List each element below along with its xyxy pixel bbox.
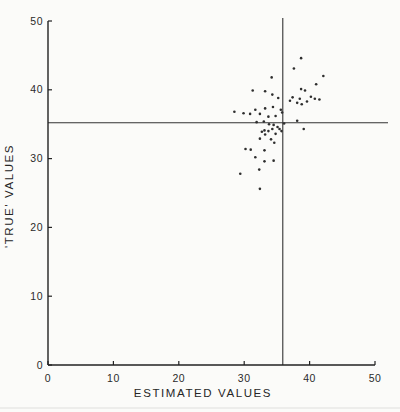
data-point <box>272 159 275 162</box>
y-tick-label: 0 <box>37 359 43 371</box>
data-point <box>276 126 279 129</box>
x-tick-label: 40 <box>303 372 316 384</box>
data-point <box>306 100 309 103</box>
data-point <box>277 97 280 100</box>
data-point <box>255 121 258 124</box>
data-point <box>293 67 296 70</box>
data-point <box>263 129 266 132</box>
data-point <box>322 75 325 78</box>
y-tick-label: 30 <box>30 152 43 164</box>
data-point <box>267 130 270 133</box>
data-point <box>272 124 275 127</box>
data-point <box>280 108 283 111</box>
x-tick-label: 20 <box>172 372 185 384</box>
data-point <box>254 108 257 111</box>
data-point <box>270 76 273 79</box>
data-point <box>298 97 301 100</box>
data-point <box>233 111 236 114</box>
data-point <box>281 111 284 114</box>
data-point <box>244 148 247 151</box>
y-tick-label: 50 <box>30 15 43 27</box>
data-point <box>289 100 292 103</box>
data-point <box>249 148 252 151</box>
x-tick-label: 0 <box>45 372 51 384</box>
data-point <box>259 137 262 140</box>
data-point <box>300 88 303 91</box>
data-point <box>314 97 317 100</box>
data-point <box>304 89 307 92</box>
data-point <box>268 123 271 126</box>
x-tick-label: 30 <box>238 372 251 384</box>
data-point <box>300 103 303 106</box>
data-point <box>270 138 273 141</box>
data-point <box>274 115 277 118</box>
data-point <box>249 113 252 116</box>
data-point <box>264 133 267 136</box>
x-tick-label: 50 <box>369 372 382 384</box>
plot-canvas: 0102030405001020304050 <box>0 0 400 412</box>
y-tick-label: 20 <box>30 221 43 233</box>
data-point <box>239 172 242 175</box>
scan-artifact-line <box>0 407 400 409</box>
data-point <box>259 113 262 116</box>
data-point <box>272 106 275 109</box>
data-point <box>302 128 305 131</box>
data-point <box>264 107 267 110</box>
data-point <box>274 133 277 136</box>
scatter-figure: 0102030405001020304050 'TRUE' VALUES EST… <box>0 0 400 412</box>
data-point <box>267 115 270 118</box>
x-axis-title: ESTIMATED VALUES <box>134 387 272 399</box>
data-point <box>315 83 318 86</box>
y-axis-title: 'TRUE' VALUES <box>3 144 15 248</box>
data-point <box>291 96 294 99</box>
data-point <box>264 90 267 93</box>
data-point <box>296 119 299 122</box>
y-tick-label: 40 <box>30 83 43 95</box>
data-point <box>263 120 266 123</box>
data-point <box>318 98 321 101</box>
data-point <box>271 93 274 96</box>
data-point <box>242 112 245 115</box>
data-point <box>271 128 274 131</box>
y-tick-label: 10 <box>30 290 43 302</box>
x-tick-label: 10 <box>107 372 120 384</box>
data-point <box>263 149 266 152</box>
data-point <box>296 102 299 105</box>
data-point <box>261 130 264 133</box>
data-point <box>300 57 303 60</box>
data-point <box>280 130 283 133</box>
data-point <box>273 141 276 144</box>
data-point <box>254 156 257 159</box>
data-point <box>278 128 281 131</box>
data-point <box>263 160 266 163</box>
data-point <box>310 95 313 98</box>
data-point <box>259 188 262 191</box>
data-point <box>283 122 286 125</box>
data-point <box>258 168 261 171</box>
data-point <box>251 89 254 92</box>
